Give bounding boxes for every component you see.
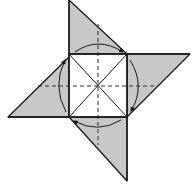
flap-bottom xyxy=(69,117,127,181)
pinwheel-fold-diagram xyxy=(0,0,192,191)
flap-left xyxy=(8,57,69,117)
